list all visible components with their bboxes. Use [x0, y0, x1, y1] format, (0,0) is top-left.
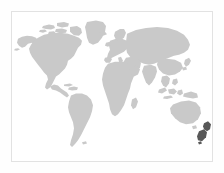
- world-map-widget: [0, 0, 224, 173]
- world-map-svg[interactable]: [12, 12, 212, 161]
- map-frame: [11, 11, 213, 162]
